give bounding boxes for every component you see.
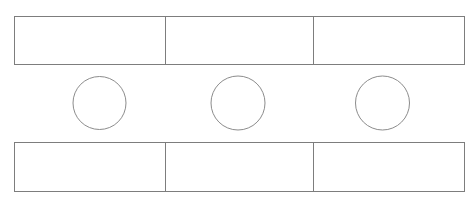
top-bar-group [15, 17, 465, 65]
circle-1 [73, 77, 126, 130]
diagram-canvas [0, 0, 475, 204]
circle-row-group [73, 76, 410, 130]
top-bar-outline [15, 17, 465, 65]
diagram-root [0, 0, 475, 204]
circle-3 [356, 76, 410, 130]
bottom-bar-outline [15, 143, 465, 192]
bottom-bar-group [15, 143, 465, 192]
circle-2 [211, 76, 265, 130]
